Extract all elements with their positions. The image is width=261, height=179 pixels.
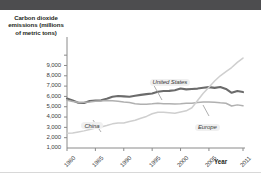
y-tick-label: 4,000 (31, 113, 61, 119)
y-tick-label: 1,000 (31, 144, 61, 150)
y-tick-label: 3,000 (31, 124, 61, 130)
chart-figure: Carbon dioxide emissions (millions of me… (0, 10, 261, 172)
y-tick-label: 9,000 (31, 62, 61, 68)
y-tick-label: 6,000 (31, 93, 61, 99)
y-tick-label: 8,000 (31, 72, 61, 78)
series-label-europe: Europe (195, 124, 220, 131)
series-label-china: China (81, 122, 102, 129)
y-tick-label: 7,000 (31, 82, 61, 88)
series-label-united-states: United States (150, 79, 191, 86)
series-line-europe (67, 100, 243, 106)
y-tick-label: 2,000 (31, 134, 61, 140)
top-band (0, 0, 261, 10)
bottom-spacer (0, 176, 261, 179)
series-line-united-states (67, 87, 243, 103)
y-tick-label: 5,000 (31, 103, 61, 109)
x-axis-title: Year (214, 158, 227, 165)
axes (64, 37, 245, 151)
chart-page: Carbon dioxide emissions (millions of me… (0, 0, 261, 179)
bottom-divider (0, 172, 261, 173)
